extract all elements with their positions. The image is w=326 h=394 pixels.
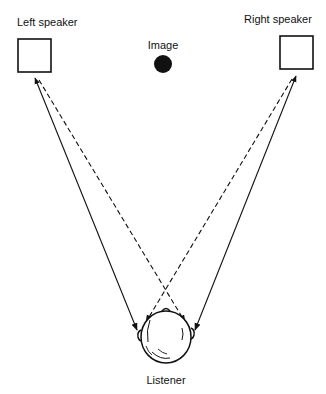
- left-speaker-label: Left speaker: [17, 16, 78, 28]
- right-crosstalk-path: [146, 79, 292, 322]
- left-speaker-box: [18, 39, 51, 72]
- right-direct-path: [195, 76, 296, 330]
- left-crosstalk-path: [39, 80, 185, 322]
- right-speaker-label: Right speaker: [244, 13, 312, 25]
- left-direct-path: [35, 78, 137, 330]
- head-outline: [141, 311, 191, 363]
- image-label: Image: [148, 39, 179, 51]
- listener-label: Listener: [146, 374, 185, 386]
- right-speaker-box: [280, 36, 313, 69]
- listener-head: [138, 309, 194, 364]
- image-dot: [154, 55, 172, 73]
- stereo-diagram: Left speaker Right speaker Image Listene…: [0, 0, 326, 394]
